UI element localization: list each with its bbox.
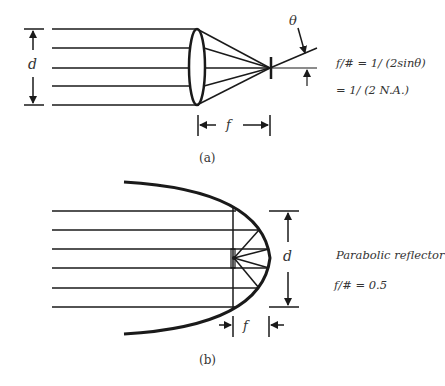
- formula-line2: = 1/ (2 N.A.): [336, 83, 409, 97]
- panel-a-lens: d θ: [24, 13, 426, 165]
- angle-marker: [298, 28, 307, 86]
- diameter-label-b: d: [283, 248, 292, 264]
- formula-line1: f/# = 1/ (2sinθ): [335, 56, 426, 70]
- parabolic-mirror: [124, 182, 270, 334]
- incoming-rays-a: [52, 29, 197, 105]
- focal-length-marker-a: [198, 115, 270, 136]
- focal-label-b: f: [242, 318, 250, 333]
- reflector-formula: f/# = 0.5: [333, 278, 387, 292]
- caption-a: (a): [199, 151, 216, 165]
- theta-label: θ: [289, 13, 297, 28]
- reflector-title: Parabolic reflector: [335, 248, 445, 262]
- panel-b-reflector: d f Parabolic reflector f/# = 0.5 (b): [52, 182, 445, 367]
- converging-rays-a: [197, 29, 270, 105]
- lens: [189, 29, 205, 105]
- focal-point-b: [232, 256, 236, 260]
- caption-b: (b): [199, 353, 216, 367]
- diameter-label-a: d: [28, 56, 37, 72]
- focal-label-a: f: [225, 117, 233, 132]
- focal-length-marker-b: [219, 316, 284, 337]
- optics-diagram: d θ: [0, 0, 445, 386]
